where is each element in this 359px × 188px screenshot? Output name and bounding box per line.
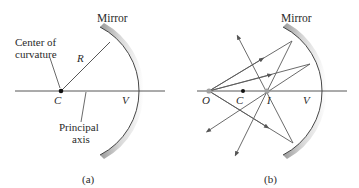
radius-label: R (76, 52, 84, 64)
object-label: O (202, 94, 210, 106)
concave-mirror-diagram: Mirror Center of curvature R C V Princip… (0, 0, 359, 188)
panel-b: Mirror O C I V (b) (197, 12, 347, 186)
center-point-a (59, 89, 64, 94)
incident-rays (209, 41, 310, 143)
axis-label-1: Principal (59, 121, 99, 133)
caption-b: (b) (264, 173, 277, 186)
panel-a: Mirror Center of curvature R C V Princip… (15, 12, 165, 186)
vertex-label-b: V (303, 94, 311, 106)
axis-label-2: axis (72, 133, 90, 145)
mirror-label-a: Mirror (97, 12, 128, 24)
center-point-b (241, 89, 245, 93)
image-point (264, 88, 269, 93)
center-label-2: curvature (15, 48, 57, 60)
radius-line (61, 42, 110, 91)
reflected-rays (208, 37, 310, 154)
center-label-1: Center of (15, 36, 57, 48)
vertex-label-a: V (122, 94, 130, 106)
center-point-label-b: C (236, 94, 244, 106)
center-point-label-a: C (54, 94, 62, 106)
object-point (206, 88, 211, 93)
mirror-label-b: Mirror (281, 12, 312, 24)
caption-a: (a) (82, 173, 95, 186)
axis-leader (81, 92, 86, 122)
center-leader (50, 58, 60, 88)
